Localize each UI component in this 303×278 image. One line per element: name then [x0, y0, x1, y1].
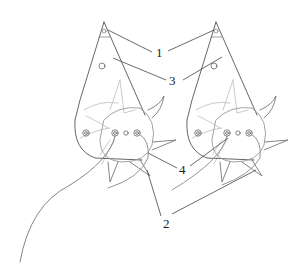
leader-3-left — [113, 58, 166, 80]
right-top-hole-icon — [214, 29, 218, 33]
label-3: 3 — [169, 74, 176, 87]
label-2: 2 — [163, 217, 170, 230]
leader-1-right — [168, 30, 214, 51]
leader-lines — [108, 30, 256, 216]
left-mount-hole-icon — [99, 63, 105, 69]
left-rotor-outline — [80, 80, 135, 164]
left-triangular-plate — [75, 22, 142, 160]
leader-4-right — [190, 138, 228, 166]
label-4: 4 — [179, 163, 186, 176]
right-unit — [172, 22, 288, 190]
diagram-canvas — [0, 0, 303, 278]
left-cable-long — [20, 136, 115, 262]
left-top-hole-icon — [102, 29, 106, 33]
leader-2-left — [147, 170, 161, 216]
right-triangular-plate — [187, 22, 254, 160]
leader-4-left — [148, 153, 177, 168]
label-1: 1 — [156, 46, 163, 59]
left-unit — [20, 22, 176, 262]
leader-1-left — [108, 30, 152, 52]
right-mount-hole-icon — [211, 63, 217, 69]
